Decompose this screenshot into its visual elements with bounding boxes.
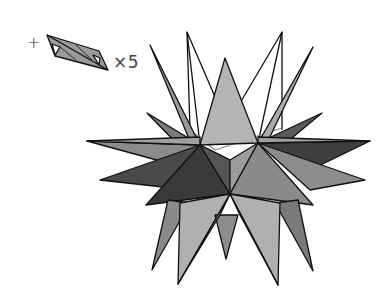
star-diagram [0,0,391,302]
module-piece-icon [47,35,108,70]
